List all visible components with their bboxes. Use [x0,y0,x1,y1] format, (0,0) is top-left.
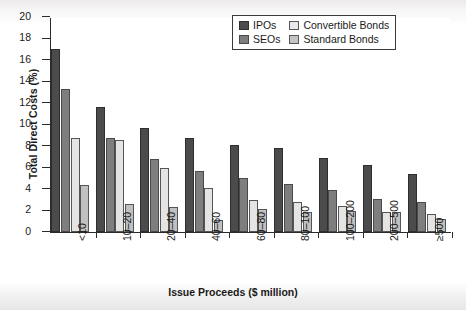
y-axis-tick-label: 20 [1,10,31,22]
y-axis-tick: 20 [42,16,50,17]
x-axis-tick [318,232,319,238]
bar-seos [106,138,115,232]
legend-swatch-icon-convertible-bonds [289,21,299,30]
y-axis-tick: 2 [42,210,50,211]
y-axis-tick: 10 [42,124,50,125]
bar-ipos [96,107,105,232]
legend: IPOs Convertible Bonds SEOs Standard Bon… [232,15,396,50]
y-axis-tick: 18 [42,38,50,39]
legend-item-convertible-bonds: Convertible Bonds [289,19,389,32]
bar-ipos [274,148,283,232]
x-axis-label: ≥500 [433,171,445,241]
y-axis-tick-label: 12 [1,96,31,108]
legend-item-standard-bonds: Standard Bonds [289,33,389,46]
y-axis-tick: 0 [42,231,50,232]
x-axis-tick [274,232,275,238]
y-axis-tick-label: 18 [1,31,31,43]
legend-swatch-icon-ipos [239,21,249,30]
y-axis-tick: 8 [42,145,50,146]
bar-seos [417,202,426,232]
legend-label-ipos: IPOs [253,19,276,32]
bar-ipos [51,49,60,232]
bar-ipos [408,174,417,232]
bar-seos [239,178,248,232]
legend-swatch-icon-seos [239,35,249,44]
y-axis-tick-label: 16 [1,53,31,65]
legend-item-seos: SEOs [239,33,280,46]
y-axis-tick: 16 [42,59,50,60]
x-axis-label: 80–100 [299,171,311,241]
x-axis-label: 200–500 [388,171,400,241]
legend-label-standard-bonds: Standard Bonds [303,33,378,46]
x-axis-label: 100–200 [344,171,356,241]
x-axis-tick [363,232,364,238]
y-axis-tick: 14 [42,81,50,82]
x-axis-tick [452,232,453,238]
bar-ipos [185,138,194,232]
y-axis-tick: 4 [42,188,50,189]
x-axis-tick [96,232,97,238]
legend-swatch-icon-standard-bonds [289,35,299,44]
x-axis-title: Issue Proceeds ($ million) [0,286,466,298]
x-axis-tick [185,232,186,238]
bar-ipos [319,158,328,232]
legend-item-ipos: IPOs [239,19,280,32]
bar-seos [150,159,159,232]
bar-seos [373,199,382,232]
bar-chart: Total Direct Costs (%) 02468101214161820… [0,0,466,310]
bar-seos [284,184,293,232]
bar-seos [61,89,70,232]
y-axis-tick: 6 [42,167,50,168]
legend-label-seos: SEOs [253,33,280,46]
y-axis-tick-label: 0 [1,225,31,237]
x-axis-tick [140,232,141,238]
y-axis-tick-label: 2 [1,203,31,215]
y-axis-tick-label: 6 [1,160,31,172]
y-axis-tick-label: 8 [1,139,31,151]
y-axis-tick: 12 [42,102,50,103]
y-axis-tick-label: 14 [1,74,31,86]
x-axis-label: 60–80 [255,171,267,241]
x-axis-label: 10–20 [121,171,133,241]
bar-ipos [140,128,149,232]
bar-ipos [363,165,372,232]
bar-seos [328,190,337,232]
y-axis-tick-label: 10 [1,117,31,129]
bar-ipos [230,145,239,232]
x-axis-tick [407,232,408,238]
x-axis-tick [229,232,230,238]
bar-seos [195,171,204,232]
legend-label-convertible-bonds: Convertible Bonds [303,19,389,32]
x-axis-label: 40–60 [210,171,222,241]
x-axis-label: 20–40 [165,171,177,241]
y-axis-tick-label: 4 [1,182,31,194]
x-axis-label: <10 [76,171,88,241]
